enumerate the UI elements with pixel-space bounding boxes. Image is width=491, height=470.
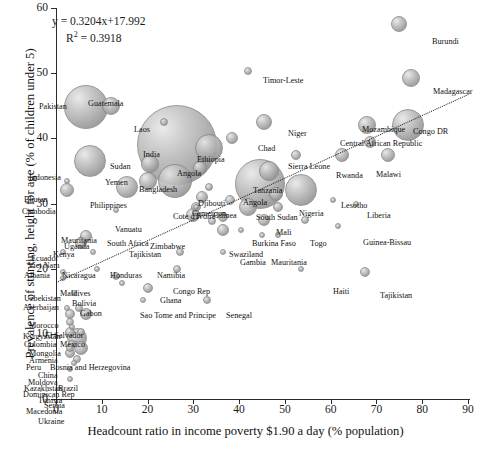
point-label: India: [143, 151, 160, 160]
point-label: Rwanda: [336, 172, 363, 181]
data-bubble: [217, 224, 229, 236]
point-label: Gabon: [80, 310, 102, 319]
data-bubble: [291, 150, 301, 160]
data-bubble: [60, 183, 74, 197]
data-bubble: [226, 132, 238, 144]
x-tick-label: 20: [133, 403, 163, 415]
data-bubble: [273, 202, 283, 212]
data-bubble: [381, 148, 395, 162]
x-tick-label: 70: [361, 403, 391, 415]
point-label: Ghana: [160, 297, 181, 306]
data-bubble: [160, 118, 168, 126]
x-tick-label: 60: [316, 403, 346, 415]
x-tick-label: 50: [270, 403, 300, 415]
point-label: Philippines: [90, 202, 127, 211]
point-label: Ethiopia: [197, 156, 225, 165]
data-bubble: [203, 296, 211, 304]
point-label: Laos: [134, 126, 150, 135]
x-tick-label: 40: [224, 403, 254, 415]
point-label: Madagascar: [433, 88, 473, 97]
point-label: Pakistan: [39, 103, 67, 112]
point-label: Burundi: [432, 38, 459, 47]
point-label: Central African Republic: [340, 140, 422, 149]
point-label: Angola: [177, 170, 201, 179]
point-label: Guinea-Bissau: [363, 239, 411, 248]
point-label: Sudan: [110, 163, 130, 172]
point-label: Malawi: [376, 171, 401, 180]
data-bubble: [238, 227, 244, 233]
x-tick-label: 90: [453, 403, 483, 415]
point-label: Timor-Leste: [263, 77, 303, 86]
data-bubble: [205, 183, 213, 191]
x-axis-line: [56, 399, 470, 400]
point-label: Haiti: [333, 288, 349, 297]
point-label: Djibouti: [198, 200, 225, 209]
point-label: Tajikistan: [380, 292, 412, 301]
point-label: Honduras: [110, 272, 142, 281]
point-label: Maldives: [60, 290, 90, 299]
point-label: South Sudan: [256, 214, 298, 223]
point-label: Sierra Leone: [288, 163, 330, 172]
x-tick-label: 10: [87, 403, 117, 415]
x-tick-label: 30: [178, 403, 208, 415]
point-label: Mexico: [60, 341, 85, 350]
data-bubble: [220, 249, 226, 255]
data-bubble: [74, 145, 106, 177]
x-axis-title: Headcount ratio in income poverty $1.90 …: [0, 424, 491, 439]
point-label: Guatemala: [88, 100, 123, 109]
point-label: South Africa: [107, 240, 149, 249]
data-bubble: [90, 249, 96, 255]
point-label: Cote d'Ivoire: [173, 213, 216, 222]
point-label: Gambia: [240, 259, 266, 268]
point-label: Guinea: [213, 212, 237, 221]
point-label: Chad: [258, 145, 275, 154]
point-label: Burkina Faso: [252, 240, 296, 249]
point-label: Liberia: [367, 212, 391, 221]
point-label: Senegal: [226, 312, 252, 321]
data-bubble: [244, 67, 252, 75]
point-label: Lesotho: [341, 202, 367, 211]
data-bubble: [402, 69, 420, 87]
point-label: Niger: [288, 130, 307, 139]
data-bubble: [391, 16, 407, 32]
point-label: Namibia: [157, 272, 185, 281]
point-label: Mozambique: [362, 126, 405, 135]
data-bubble: [143, 283, 153, 293]
data-bubble: [335, 223, 341, 229]
point-label: Bosnia and Herzegovina: [50, 364, 130, 373]
data-bubble: [256, 114, 272, 130]
point-label: Nicaragua: [62, 272, 96, 281]
data-bubble: [360, 267, 370, 277]
point-label: Sao Tome and Principe: [140, 312, 216, 321]
point-label: Tanzania: [253, 187, 282, 196]
point-label: Tajikistan: [129, 251, 161, 260]
data-bubble: [67, 376, 73, 382]
point-label: Togo: [310, 240, 327, 249]
x-tick-label: 80: [407, 403, 437, 415]
point-label: Yemen: [105, 179, 128, 188]
data-bubble: [259, 161, 279, 181]
point-label: Vanuatu: [115, 226, 142, 235]
y-axis-title: Prevalence of stunting, height for age (…: [23, 0, 38, 414]
point-label: Bangladesh: [139, 186, 177, 195]
data-bubble: [140, 297, 146, 303]
point-label: Bolivia: [72, 300, 96, 309]
data-bubble: [119, 280, 125, 286]
data-bubble: [330, 197, 336, 203]
point-label: Mali: [276, 229, 291, 238]
bubble-chart: y = 0.3204x+17.992 R2 = 0.3918 010203040…: [0, 0, 491, 470]
data-bubble: [285, 174, 317, 206]
point-label: Angola: [243, 199, 267, 208]
point-label: Congo DR: [413, 128, 448, 137]
data-bubble: [259, 232, 265, 238]
point-label: Nigeria: [299, 210, 324, 219]
point-label: Mauritania: [271, 259, 307, 268]
